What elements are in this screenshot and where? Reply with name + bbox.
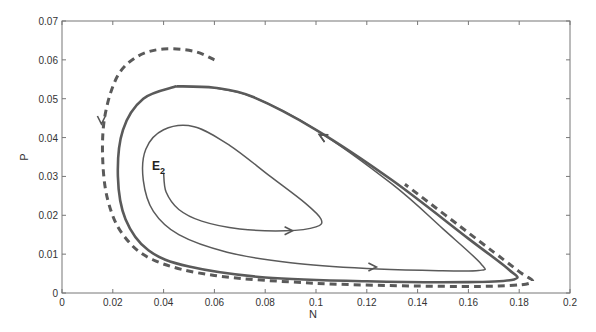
x-axis-label: N <box>309 308 317 320</box>
y-tick-label: 0.04 <box>39 133 59 144</box>
x-tick-label: 0.14 <box>408 297 428 308</box>
y-tick-label: 0.06 <box>39 55 59 66</box>
y-axis-label: P <box>18 153 30 160</box>
x-tick-label: 0.12 <box>357 297 377 308</box>
x-tick-label: 0.08 <box>255 297 275 308</box>
y-tick-label: 0.01 <box>39 249 59 260</box>
y-tick-label: 0.02 <box>39 210 59 221</box>
y-tick-label: 0.07 <box>39 16 59 27</box>
equilibrium-subscript: 2 <box>160 166 165 176</box>
y-tick-label: 0 <box>52 288 58 299</box>
x-tick-label: 0 <box>59 297 65 308</box>
x-tick-label: 0.02 <box>103 297 123 308</box>
x-tick-label: 0.06 <box>205 297 225 308</box>
x-tick-label: 0.1 <box>309 297 323 308</box>
x-tick-label: 0.16 <box>459 297 479 308</box>
y-tick-label: 0.03 <box>39 171 59 182</box>
phase-portrait-chart: 00.020.040.060.080.10.120.140.160.180.2 … <box>0 0 596 332</box>
x-tick-label: 0.18 <box>509 297 529 308</box>
x-tick-label: 0.2 <box>563 297 577 308</box>
equilibrium-letter: E <box>152 159 160 173</box>
y-tick-label: 0.05 <box>39 94 59 105</box>
x-tick-label: 0.04 <box>154 297 174 308</box>
